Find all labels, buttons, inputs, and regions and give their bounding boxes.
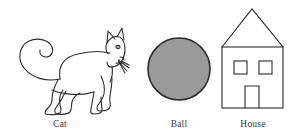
caption-house: House [220, 118, 286, 130]
filled-circle-icon [146, 36, 212, 102]
house-line-drawing-icon [214, 4, 292, 112]
cat-figure [8, 16, 128, 116]
drawing-canvas: Cat Ball House [0, 0, 296, 139]
cat-line-drawing-icon [8, 16, 128, 116]
caption-ball: Ball [148, 118, 210, 130]
caption-cat: Cat [28, 118, 92, 130]
house-figure [214, 4, 292, 112]
ball-figure [146, 36, 212, 102]
